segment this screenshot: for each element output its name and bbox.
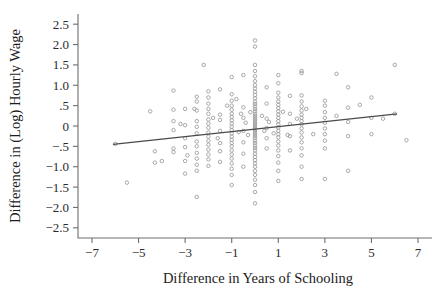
y-tick-label: 2.5 [53,17,69,32]
x-tick-label: −7 [85,245,99,260]
y-tick-label: −1.0 [45,159,69,174]
y-tick-label: −1.5 [45,180,69,195]
scatter-plot-figure: −7−5−3−11357 2.52.01.51.0.50−.5−1.0−1.5−… [0,0,444,291]
y-tick-label: 2.0 [53,37,69,52]
x-axis-title: Difference in Years of Schooling [163,270,353,286]
y-tick-label: −2.0 [45,200,69,215]
y-tick-label: .5 [59,98,69,113]
y-tick-label: 1.0 [53,78,69,93]
x-tick-label: 5 [368,245,375,260]
x-tick-label: 7 [415,245,422,260]
y-tick-label: −2.5 [45,220,69,235]
x-tick-label: −1 [225,245,239,260]
x-tick-label: 1 [275,245,282,260]
y-tick-label: −.5 [52,139,69,154]
y-axis-title: Difference in (Log) Hourly Wage [7,29,24,223]
y-tick-label: 1.5 [53,57,69,72]
x-tick-label: −3 [178,245,192,260]
y-tick-label: 0 [63,119,70,134]
x-tick-label: −5 [132,245,146,260]
x-tick-label: 3 [322,245,329,260]
plot-canvas: −7−5−3−11357 2.52.01.51.0.50−.5−1.0−1.5−… [0,0,444,291]
